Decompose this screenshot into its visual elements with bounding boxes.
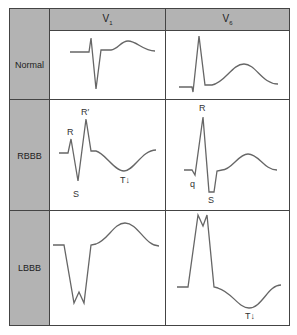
- waveform-lbbb-v1: [53, 223, 159, 303]
- label-s: S: [208, 195, 214, 205]
- waveform-normal-v6: [179, 36, 278, 92]
- label-r: R: [199, 103, 206, 113]
- label-r-prime: R′: [81, 107, 89, 117]
- label-t-inverted: T↓: [245, 311, 255, 321]
- waveform-rbbb-v6: [184, 117, 277, 192]
- waveform-rbbb-v1: [59, 119, 156, 181]
- label-t-inverted: T↓: [120, 175, 130, 185]
- waveform-lbbb-v6: [177, 215, 281, 308]
- label-q: q: [190, 179, 195, 189]
- label-s: S: [73, 189, 79, 199]
- ecg-waveforms: R R′ S T↓ R q S T↓: [0, 0, 297, 335]
- label-r: R: [67, 127, 74, 137]
- waveform-normal-v1: [70, 38, 155, 89]
